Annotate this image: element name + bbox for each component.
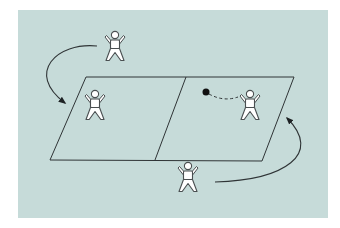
diagram-canvas (0, 0, 340, 228)
ball-icon (203, 89, 210, 96)
court-diagram (0, 0, 340, 228)
diagram-background-panel (18, 10, 328, 218)
